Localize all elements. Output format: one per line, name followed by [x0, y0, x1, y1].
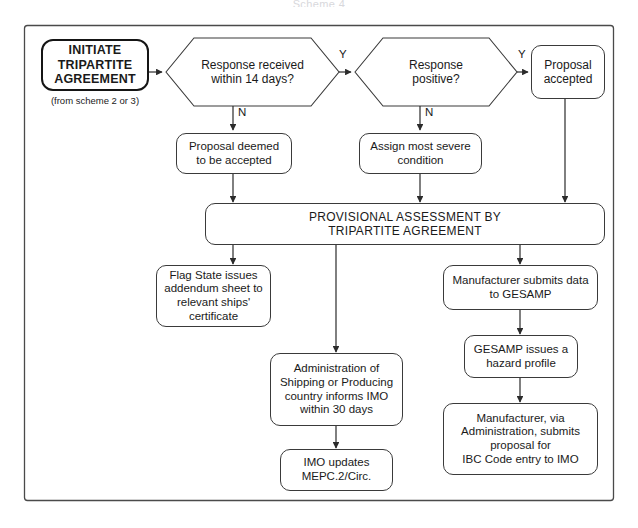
- node-decision-response-received[interactable]: Response received within 14 days?: [174, 52, 331, 92]
- node-gesamp-hazard-profile[interactable]: GESAMP issues a hazard profile: [464, 335, 578, 378]
- node-decision-response-received-label: Response received within 14 days?: [201, 58, 304, 87]
- node-decision-response-positive[interactable]: Response positive?: [371, 52, 501, 92]
- document-title: Scheme 4: [0, 0, 638, 7]
- edge-label-yes-1: Y: [339, 48, 347, 60]
- node-flag-state-addendum-label: Flag State issues addendum sheet to rele…: [164, 269, 262, 323]
- flowchart-canvas: Scheme 4: [0, 0, 638, 528]
- node-gesamp-hazard-profile-label: GESAMP issues a hazard profile: [474, 343, 568, 370]
- node-initiate-sublabel: (from scheme 2 or 3): [31, 95, 159, 106]
- edge-label-no-2: N: [425, 106, 433, 118]
- node-initiate-label: INITIATE TRIPARTITE AGREEMENT: [54, 43, 136, 87]
- node-assign-severe-condition-label: Assign most severe condition: [370, 140, 470, 167]
- node-imo-updates-mepc-label: IMO updates MEPC.2/Circ.: [302, 456, 372, 483]
- node-manufacturer-submits-data-label: Manufacturer submits data to GESAMP: [452, 274, 588, 301]
- edge-label-no-1: N: [238, 106, 246, 118]
- node-manufacturer-ibc-proposal-label: Manufacturer, via Administration, submit…: [461, 412, 580, 466]
- node-administration-informs-imo[interactable]: Administration of Shipping or Producing …: [270, 353, 403, 426]
- node-provisional-assessment[interactable]: PROVISIONAL ASSESSMENT BY TRIPARTITE AGR…: [205, 203, 605, 245]
- node-initiate-tripartite-agreement[interactable]: INITIATE TRIPARTITE AGREEMENT: [41, 39, 149, 91]
- edge-label-yes-2: Y: [518, 48, 526, 60]
- node-decision-response-positive-label: Response positive?: [409, 58, 463, 87]
- node-provisional-assessment-label: PROVISIONAL ASSESSMENT BY TRIPARTITE AGR…: [309, 210, 501, 238]
- node-manufacturer-ibc-proposal[interactable]: Manufacturer, via Administration, submit…: [443, 403, 598, 475]
- node-assign-severe-condition[interactable]: Assign most severe condition: [359, 133, 482, 174]
- node-proposal-deemed-accepted[interactable]: Proposal deemed to be accepted: [176, 133, 292, 174]
- node-proposal-accepted-label: Proposal accepted: [544, 58, 593, 86]
- node-administration-informs-imo-label: Administration of Shipping or Producing …: [280, 362, 393, 416]
- node-flag-state-addendum[interactable]: Flag State issues addendum sheet to rele…: [156, 265, 271, 327]
- node-manufacturer-submits-data[interactable]: Manufacturer submits data to GESAMP: [443, 265, 598, 310]
- node-proposal-accepted[interactable]: Proposal accepted: [531, 45, 605, 99]
- node-proposal-deemed-accepted-label: Proposal deemed to be accepted: [189, 140, 279, 167]
- node-imo-updates-mepc[interactable]: IMO updates MEPC.2/Circ.: [280, 449, 393, 491]
